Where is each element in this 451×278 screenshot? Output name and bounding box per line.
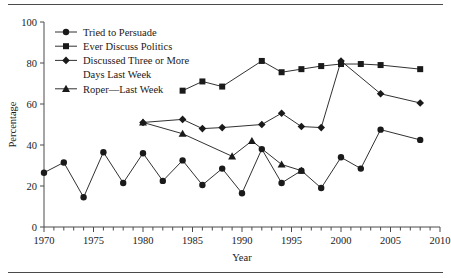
series-marker <box>298 66 304 72</box>
series-marker <box>120 180 126 186</box>
y-tick-label: 60 <box>27 99 38 110</box>
series-marker <box>278 109 286 117</box>
series-marker <box>298 123 306 131</box>
legend-marker-diamond <box>62 57 70 65</box>
series-marker <box>61 159 67 165</box>
legend-label: Tried to Persuade <box>83 27 157 38</box>
series-marker <box>318 185 324 191</box>
series-marker <box>417 137 423 143</box>
x-tick-label: 1970 <box>34 235 55 246</box>
x-tick-label: 1990 <box>232 235 253 246</box>
series-marker <box>199 182 205 188</box>
series-discussed-three-or-more-days-last-week <box>139 57 424 132</box>
x-tick-label: 2010 <box>430 235 451 246</box>
series-marker <box>358 61 364 67</box>
series-marker <box>179 116 187 124</box>
series-marker <box>378 62 384 68</box>
x-tick-label: 2000 <box>331 235 352 246</box>
y-tick-label: 80 <box>27 58 38 69</box>
legend-label: Roper—Last Week <box>83 84 164 95</box>
x-tick-label: 2005 <box>380 235 401 246</box>
legend-marker-square <box>63 43 69 49</box>
series-marker <box>259 58 265 64</box>
series-marker <box>318 63 324 69</box>
series-marker <box>218 124 226 132</box>
x-tick-label: 1975 <box>83 235 104 246</box>
series-marker <box>199 78 205 84</box>
series-line <box>183 61 421 91</box>
series-marker <box>160 178 166 184</box>
series-marker <box>179 157 185 163</box>
series-marker <box>258 121 266 129</box>
series-marker <box>180 88 186 94</box>
series-marker <box>140 150 146 156</box>
series-marker <box>41 169 47 175</box>
series-marker <box>279 69 285 75</box>
y-tick-label: 100 <box>21 17 37 28</box>
series-marker <box>377 126 383 132</box>
figure-container: 0204060801001970197519801985199019952000… <box>0 0 451 278</box>
series-marker <box>199 125 207 133</box>
legend-label: Ever Discuss Politics <box>83 41 172 52</box>
series-marker <box>239 190 245 196</box>
series-line <box>44 130 420 198</box>
series-marker <box>317 124 325 132</box>
series-marker <box>219 84 225 90</box>
series-marker <box>417 66 423 72</box>
legend-label: Discussed Three or More <box>83 55 190 66</box>
line-chart: 0204060801001970197519801985199019952000… <box>0 0 451 278</box>
legend: Tried to PersuadeEver Discuss PoliticsDi… <box>55 27 190 95</box>
x-tick-label: 1995 <box>281 235 302 246</box>
series-marker <box>358 165 364 171</box>
series-marker <box>338 154 344 160</box>
legend-marker-circle <box>63 29 69 35</box>
series-marker <box>278 160 286 167</box>
series-marker <box>100 149 106 155</box>
x-axis-title: Year <box>232 252 252 263</box>
series-marker <box>219 165 225 171</box>
series-marker <box>228 152 236 159</box>
series-marker <box>416 99 424 107</box>
series-marker <box>278 180 284 186</box>
legend-label-continued: Days Last Week <box>83 69 152 80</box>
series-marker <box>248 137 256 144</box>
y-tick-label: 40 <box>27 140 38 151</box>
series-ever-discuss-politics <box>180 58 424 94</box>
x-tick-label: 1980 <box>133 235 154 246</box>
x-tick-label: 1985 <box>182 235 203 246</box>
series-marker <box>80 194 86 200</box>
series-tried-to-persuade <box>41 126 424 200</box>
y-tick-label: 20 <box>27 181 38 192</box>
y-tick-label: 0 <box>32 222 37 233</box>
y-axis-title: Percentage <box>7 101 18 147</box>
